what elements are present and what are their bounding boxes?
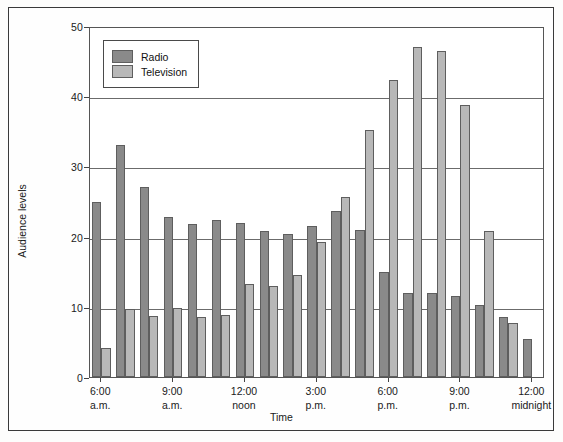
bar-television-7 <box>269 286 278 377</box>
y-tick-label-50: 50 <box>61 21 83 33</box>
bar-radio-15 <box>451 296 460 377</box>
x-tick-mark-9 <box>316 378 317 382</box>
bar-radio-4 <box>188 224 197 377</box>
bar-television-11 <box>365 130 374 377</box>
x-tick-period: a.m. <box>90 398 110 412</box>
bar-television-4 <box>197 317 206 377</box>
chart-legend: Radio Television <box>103 40 199 88</box>
legend-item-television: Television <box>112 65 187 78</box>
y-axis-title: Audience levels <box>16 184 28 258</box>
plot-area: Radio Television <box>89 27 544 378</box>
legend-swatch-television-icon <box>112 65 133 78</box>
x-tick-period: p.m. <box>306 398 326 412</box>
bar-radio-16 <box>475 305 484 377</box>
legend-label-radio: Radio <box>141 51 168 63</box>
x-tick-mark-12 <box>388 378 389 382</box>
bar-television-13 <box>413 47 422 377</box>
bar-radio-17 <box>499 317 508 377</box>
figure-container: Audience levels 01020304050 Radio Televi… <box>0 0 563 442</box>
bar-radio-3 <box>164 217 173 377</box>
y-tick-label-10: 10 <box>61 302 83 314</box>
bar-television-14 <box>437 51 446 377</box>
x-tick-mark-18 <box>531 378 532 382</box>
x-tick-label-0: 6:00a.m. <box>90 384 110 412</box>
bar-radio-11 <box>355 230 364 377</box>
x-tick-mark-15 <box>459 378 460 382</box>
bar-radio-12 <box>379 272 388 377</box>
bar-radio-1 <box>116 145 125 377</box>
y-tick-label-0: 0 <box>61 372 83 384</box>
bar-television-1 <box>125 309 134 377</box>
x-tick-label-6: 12:00noon <box>231 384 257 412</box>
x-tick-time: 12:00 <box>231 384 257 398</box>
y-tick-label-20: 20 <box>61 232 83 244</box>
x-tick-time: 6:00 <box>377 384 397 398</box>
x-tick-time: 9:00 <box>162 384 182 398</box>
bar-radio-0 <box>92 202 101 378</box>
x-tick-mark-3 <box>172 378 173 382</box>
x-tick-label-3: 9:00a.m. <box>162 384 182 412</box>
bar-television-10 <box>341 197 350 377</box>
x-axis-title: Time <box>0 411 563 423</box>
x-tick-period: midnight <box>511 398 551 412</box>
y-tick-label-40: 40 <box>61 91 83 103</box>
bar-radio-14 <box>427 293 436 377</box>
x-tick-time: 12:00 <box>511 384 551 398</box>
legend-swatch-radio-icon <box>112 50 133 63</box>
x-tick-label-9: 3:00p.m. <box>306 384 326 412</box>
legend-item-radio: Radio <box>112 50 187 63</box>
x-tick-label-12: 6:00p.m. <box>377 384 397 412</box>
x-tick-period: p.m. <box>449 398 469 412</box>
bar-television-2 <box>149 316 158 377</box>
legend-label-television: Television <box>141 66 187 78</box>
x-tick-label-15: 9:00p.m. <box>449 384 469 412</box>
bar-television-17 <box>508 323 517 377</box>
x-tick-mark-0 <box>100 378 101 382</box>
y-tick-mark-0 <box>84 378 89 379</box>
bar-television-15 <box>460 105 469 377</box>
bar-radio-9 <box>307 226 316 377</box>
x-tick-label-18: 12:00midnight <box>511 384 551 412</box>
bar-television-8 <box>293 275 302 377</box>
y-tick-label-30: 30 <box>61 161 83 173</box>
bar-radio-6 <box>236 223 245 377</box>
bar-television-16 <box>484 231 493 377</box>
x-tick-time: 9:00 <box>449 384 469 398</box>
bar-television-3 <box>173 308 182 377</box>
bar-radio-5 <box>212 220 221 377</box>
bar-television-0 <box>101 348 110 377</box>
x-tick-time: 6:00 <box>90 384 110 398</box>
x-tick-period: noon <box>231 398 257 412</box>
bar-television-12 <box>389 80 398 377</box>
bar-radio-13 <box>403 293 412 377</box>
bar-radio-18 <box>523 339 532 377</box>
bar-television-6 <box>245 284 254 377</box>
bar-television-5 <box>221 315 230 377</box>
bar-radio-8 <box>283 234 292 377</box>
x-tick-time: 3:00 <box>306 384 326 398</box>
x-tick-period: p.m. <box>377 398 397 412</box>
x-tick-mark-6 <box>244 378 245 382</box>
bar-television-9 <box>317 242 326 377</box>
x-tick-period: a.m. <box>162 398 182 412</box>
bar-radio-2 <box>140 187 149 377</box>
bar-radio-10 <box>331 211 340 377</box>
bar-radio-7 <box>260 231 269 377</box>
